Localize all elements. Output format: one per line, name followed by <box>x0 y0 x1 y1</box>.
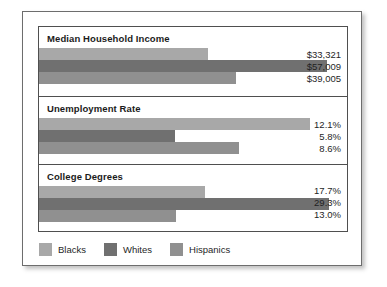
legend-swatch-icon <box>39 243 52 256</box>
value-labels: 17.7% 29.3% 13.0% <box>271 185 341 221</box>
bar-hispanics <box>39 210 176 222</box>
value-label-whites: 5.8% <box>271 131 341 143</box>
legend-swatch-icon <box>170 243 183 256</box>
value-labels: 12.1% 5.8% 8.6% <box>271 119 341 155</box>
value-labels: $33,321 $57,009 $39,005 <box>271 49 341 85</box>
bar-whites <box>39 130 175 142</box>
legend-item-hispanics: Hispanics <box>170 243 230 256</box>
legend-label: Hispanics <box>189 244 230 255</box>
legend-item-whites: Whites <box>104 243 152 256</box>
value-label-whites: $57,009 <box>271 61 341 73</box>
value-label-blacks: 12.1% <box>271 119 341 131</box>
value-label-blacks: 17.7% <box>271 185 341 197</box>
chart-legend: Blacks Whites Hispanics <box>39 243 248 256</box>
legend-label: Blacks <box>58 244 86 255</box>
bar-blacks <box>39 186 205 198</box>
value-label-hispanics: 13.0% <box>271 209 341 221</box>
bar-hispanics <box>39 142 239 154</box>
panel-median-household-income: Median Household Income $33,321 $57,009 <box>39 27 347 97</box>
panel-title: Unemployment Rate <box>39 97 347 115</box>
panel-title: Median Household Income <box>39 27 347 45</box>
bar-blacks <box>39 48 208 60</box>
panel-college-degrees: College Degrees 17.7% 29.3% 13.0% <box>39 165 347 231</box>
panel-title: College Degrees <box>39 165 347 183</box>
legend-item-blacks: Blacks <box>39 243 86 256</box>
chart-canvas: Median Household Income $33,321 $57,009 <box>0 0 387 287</box>
panel-group: Median Household Income $33,321 $57,009 <box>38 26 348 232</box>
chart-card: Median Household Income $33,321 $57,009 <box>22 11 362 266</box>
value-label-whites: 29.3% <box>271 197 341 209</box>
value-label-blacks: $33,321 <box>271 49 341 61</box>
bar-hispanics <box>39 72 236 84</box>
value-label-hispanics: 8.6% <box>271 143 341 155</box>
value-label-hispanics: $39,005 <box>271 73 341 85</box>
legend-label: Whites <box>123 244 152 255</box>
legend-swatch-icon <box>104 243 117 256</box>
bar-blacks <box>39 118 310 130</box>
panel-unemployment-rate: Unemployment Rate 12.1% 5.8% 8.6% <box>39 97 347 165</box>
